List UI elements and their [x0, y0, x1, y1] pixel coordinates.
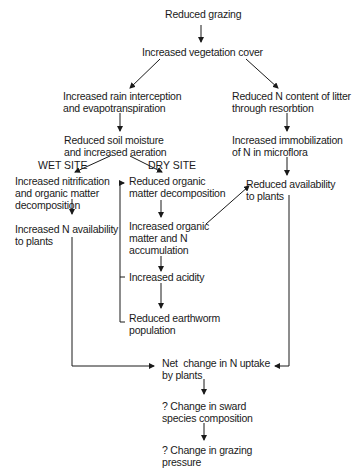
node-rain-interception: Increased rain interception and evapotra…: [63, 90, 181, 114]
edge-cover-to-rain: [130, 59, 160, 88]
edge-feedback-bracket: [120, 183, 125, 322]
node-reduced-availability: Reduced availability to plants: [246, 178, 335, 202]
node-reduced-earthworm: Reduced earthworm population: [129, 312, 220, 336]
node-immobilization: Increased immobilization of N in microfl…: [232, 134, 343, 158]
edge-reducedavail-to-net: [275, 195, 289, 366]
node-increased-vegetation-cover: Increased vegetation cover: [142, 46, 263, 58]
edge-navail-to-net: [72, 237, 154, 366]
node-increased-n-availability: Increased N availability to plants: [15, 223, 118, 247]
label-wet-site: WET SITE: [38, 159, 87, 171]
node-reduced-soil-moisture: Reduced soil moisture and increased aera…: [64, 134, 166, 158]
node-om-n-accumulation: Increased organic matter and N accumulat…: [129, 220, 209, 256]
node-reduced-om-decomposition: Reduced organic matter decomposition: [129, 175, 225, 199]
node-net-change-uptake: Net change in N uptake by plants: [162, 357, 270, 381]
label-dry-site: DRY SITE: [148, 159, 196, 171]
edge-cover-to-litter: [246, 59, 278, 88]
node-nitrification: Increased nitrification and organic matt…: [15, 175, 110, 211]
node-reduced-n-litter: Reduced N content of litter through reso…: [232, 90, 351, 114]
node-grazing-pressure: ? Change in grazing pressure: [162, 444, 252, 468]
node-reduced-grazing: Reduced grazing: [165, 8, 241, 20]
node-sward-composition: ? Change in sward species composition: [162, 400, 253, 424]
node-increased-acidity: Increased acidity: [129, 271, 204, 283]
